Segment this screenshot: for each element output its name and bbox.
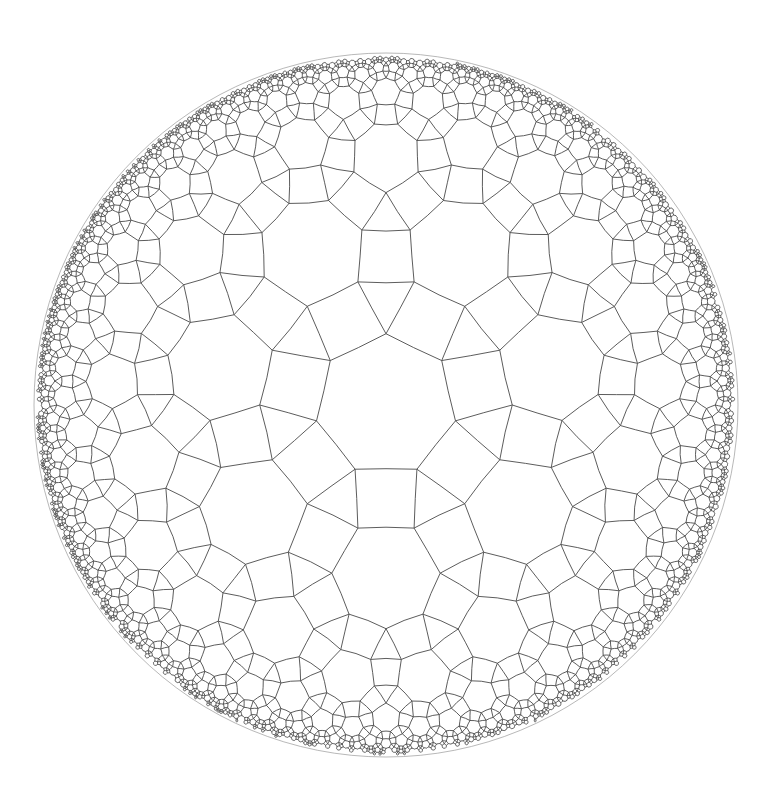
poincare-disk-diagram xyxy=(0,0,769,811)
